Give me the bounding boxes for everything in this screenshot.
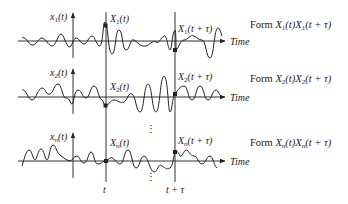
sample-point-t-row-n xyxy=(104,159,108,163)
ensemble-diagram: x1(t) X1(t) X1(t + τ) Time Form X1(t)X1(… xyxy=(0,0,348,204)
sample-label-t-plus-tau-row-1: X1(t + τ) xyxy=(177,23,213,36)
form-label-row-2: Form X2(t)X2(t + τ) xyxy=(250,73,332,86)
sample-point-t-row-2 xyxy=(104,104,108,108)
sample-point-t-plus-tau-row-n xyxy=(173,150,177,154)
marker-label-t: t xyxy=(103,184,106,195)
sample-label-t-plus-tau-row-n: Xn(t + τ) xyxy=(177,135,213,148)
sample-label-t-row-1: X1(t) xyxy=(109,13,130,26)
sample-point-t-plus-tau-row-1 xyxy=(173,48,177,52)
sample-label-t-row-2: X2(t) xyxy=(109,81,130,94)
ellipsis-upper: ⋮ xyxy=(146,123,156,134)
axis-label-row-n: xn(t) xyxy=(49,131,68,144)
sample-label-t-row-n: Xn(t) xyxy=(109,137,130,150)
ellipsis-lower: ⋮ xyxy=(146,171,156,182)
axis-label-row-2: x2(t) xyxy=(49,67,68,80)
time-label-row-1: Time xyxy=(230,36,250,47)
marker-label-t-plus-tau: t + τ xyxy=(166,184,185,195)
time-label-row-n: Time xyxy=(230,156,250,167)
form-label-row-1: Form X1(t)X1(t + τ) xyxy=(250,19,332,32)
sample-label-t-plus-tau-row-2: X2(t + τ) xyxy=(177,71,213,84)
form-label-row-n: Form Xn(t)Xn(t + τ) xyxy=(250,137,332,150)
axis-label-row-1: x1(t) xyxy=(49,11,68,24)
sample-point-t-plus-tau-row-2 xyxy=(173,92,177,96)
sample-point-t-row-1 xyxy=(104,24,108,28)
time-label-row-2: Time xyxy=(230,92,250,103)
